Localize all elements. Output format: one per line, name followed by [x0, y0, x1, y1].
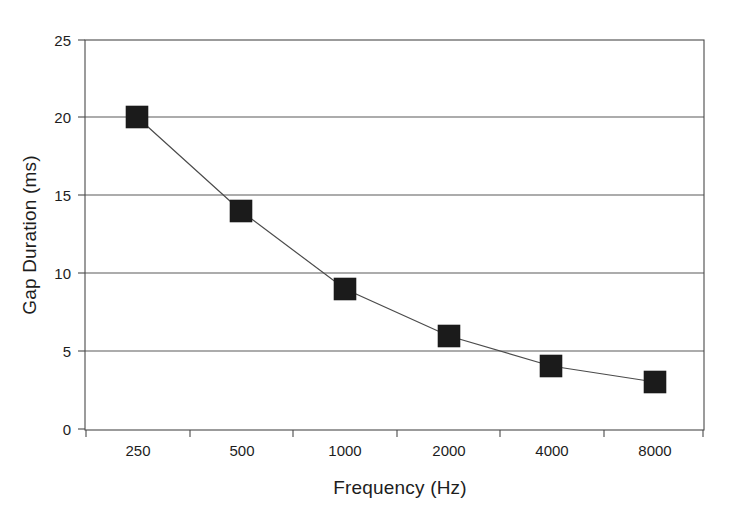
line-chart: 25 20 15 10 5 0 250 500 1000 2000 4000 8…	[0, 0, 735, 525]
y-tick-label-20: 20	[54, 109, 71, 126]
x-tick-label-500: 500	[229, 442, 254, 459]
x-tick-label-1000: 1000	[328, 442, 361, 459]
y-tick-label-10: 10	[54, 265, 71, 282]
data-point-8000[interactable]	[644, 371, 666, 393]
y-tick-label-5: 5	[63, 343, 71, 360]
data-point-500[interactable]	[230, 200, 252, 222]
x-tick-labels: 250 500 1000 2000 4000 8000	[125, 442, 671, 459]
data-point-4000[interactable]	[540, 355, 562, 377]
x-tick-marks	[86, 430, 703, 437]
y-tick-marks	[78, 40, 85, 429]
plot-background	[85, 40, 704, 430]
data-point-1000[interactable]	[334, 278, 356, 300]
y-tick-label-25: 25	[54, 32, 71, 49]
y-tick-labels: 25 20 15 10 5 0	[54, 32, 71, 438]
y-tick-label-15: 15	[54, 187, 71, 204]
data-point-250[interactable]	[126, 106, 148, 128]
chart-figure: 25 20 15 10 5 0 250 500 1000 2000 4000 8…	[0, 0, 735, 525]
x-tick-label-2000: 2000	[432, 442, 465, 459]
data-point-2000[interactable]	[438, 325, 460, 347]
x-tick-label-250: 250	[125, 442, 150, 459]
x-axis-title: Frequency (Hz)	[333, 477, 467, 498]
x-tick-label-8000: 8000	[638, 442, 671, 459]
y-tick-label-0: 0	[63, 421, 71, 438]
x-tick-label-4000: 4000	[535, 442, 568, 459]
y-axis-title: Gap Duration (ms)	[19, 155, 40, 315]
